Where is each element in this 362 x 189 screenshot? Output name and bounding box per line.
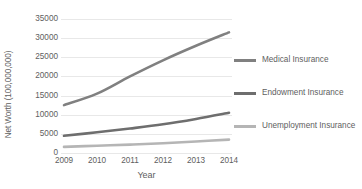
legend-label: Medical Insurance xyxy=(262,55,328,66)
y-axis-tick-label: 15000 xyxy=(14,91,58,101)
y-axis-tick-label: 10000 xyxy=(14,110,58,120)
x-axis-title: Year xyxy=(61,170,232,180)
legend-swatch-icon xyxy=(234,92,256,95)
x-axis-tick-label: 2014 xyxy=(212,155,246,166)
x-axis-tick-label: 2012 xyxy=(146,155,180,166)
series-line xyxy=(64,140,229,147)
y-axis-tick-label: 35000 xyxy=(14,14,58,24)
y-axis-tick-labels: 05000100001500020000250003000035000 xyxy=(14,13,58,159)
x-axis-tick-label: 2011 xyxy=(113,155,147,166)
line-chart: Net Worth (100,000,000) 0500010000150002… xyxy=(0,0,362,189)
y-axis-tick-label: 25000 xyxy=(14,52,58,62)
legend-swatch-icon xyxy=(234,125,256,128)
series-line xyxy=(64,113,229,136)
series-line xyxy=(64,32,229,105)
gridline xyxy=(61,153,232,154)
legend-item[interactable]: Unemployment Insurance xyxy=(234,121,362,132)
legend-item[interactable]: Medical Insurance xyxy=(234,55,362,66)
plot-area xyxy=(61,19,232,153)
legend-item[interactable]: Endowment Insurance xyxy=(234,88,362,99)
y-axis-tick-label: 30000 xyxy=(14,33,58,43)
x-axis-tick-label: 2010 xyxy=(80,155,114,166)
y-axis-tick-label: 20000 xyxy=(14,71,58,81)
legend-label: Endowment Insurance xyxy=(262,88,343,99)
x-axis-tick-label: 2013 xyxy=(179,155,213,166)
series-lines xyxy=(61,19,232,153)
legend-label: Unemployment Insurance xyxy=(262,121,355,132)
x-axis-tick-label: 2009 xyxy=(47,155,81,166)
legend-swatch-icon xyxy=(234,59,256,62)
y-axis-tick-label: 5000 xyxy=(14,129,58,139)
x-axis-tick-labels: 200920102011201220132014 xyxy=(61,155,232,167)
